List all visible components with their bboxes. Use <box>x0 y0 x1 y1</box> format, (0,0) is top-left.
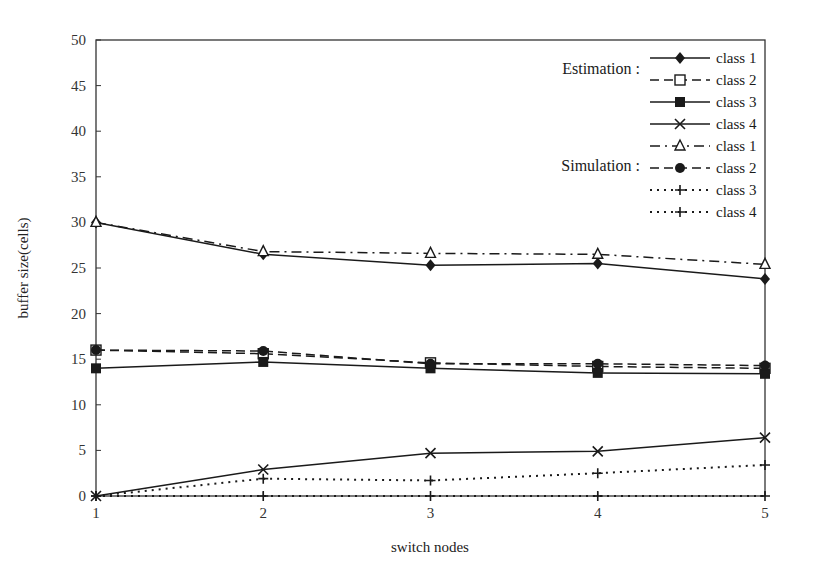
legend-entry: class 4 <box>650 116 757 132</box>
y-tick-label: 40 <box>71 123 86 139</box>
data-point-marker <box>258 246 268 256</box>
data-point-marker <box>258 491 268 501</box>
x-tick-label: 4 <box>594 505 602 521</box>
x-tick-label: 5 <box>761 505 769 521</box>
legend-entry: class 1 <box>650 50 756 66</box>
data-point-marker <box>593 248 603 258</box>
legend-marker <box>675 163 685 173</box>
data-point-marker <box>593 491 603 501</box>
y-tick-label: 35 <box>71 169 86 185</box>
legend-simulation-title: Simulation : <box>561 157 640 174</box>
y-tick-label: 15 <box>71 351 86 367</box>
legend-label: class 2 <box>716 72 756 88</box>
x-tick-label: 1 <box>92 505 100 521</box>
legend-marker <box>675 207 685 217</box>
legend-label: class 3 <box>716 182 756 198</box>
data-point-marker <box>760 273 770 285</box>
y-tick-label: 10 <box>71 397 86 413</box>
y-tick-label: 20 <box>71 306 86 322</box>
data-point-marker <box>426 491 436 501</box>
data-point-marker <box>760 491 770 501</box>
x-tick-label: 2 <box>260 505 268 521</box>
data-point-marker <box>258 357 268 367</box>
data-point-marker <box>593 257 603 269</box>
y-axis-title: buffer size(cells) <box>15 218 32 319</box>
data-point-marker <box>91 363 101 373</box>
y-tick-label: 45 <box>71 78 86 94</box>
y-tick-label: 50 <box>71 32 86 48</box>
y-tick-label: 5 <box>79 442 87 458</box>
series-estimation-class-4 <box>91 433 770 501</box>
series-layer <box>91 216 770 501</box>
legend-label: class 4 <box>716 116 757 132</box>
legend-label: class 4 <box>716 204 757 220</box>
legend-marker <box>675 140 685 150</box>
data-point-marker <box>426 259 436 271</box>
data-point-marker <box>426 475 436 485</box>
legend-entry: class 2 <box>650 72 756 88</box>
data-point-marker <box>258 346 268 356</box>
legend-entry: class 2 <box>650 160 756 176</box>
legend-entry: class 3 <box>650 182 756 198</box>
legend-marker <box>675 185 685 195</box>
data-point-marker <box>760 361 770 371</box>
data-point-marker <box>426 359 436 369</box>
data-point-marker <box>258 474 268 484</box>
y-tick-label: 0 <box>79 488 87 504</box>
legend-entry: class 4 <box>650 204 757 220</box>
legend-marker <box>675 52 685 64</box>
x-tick-label: 3 <box>427 505 435 521</box>
x-axis-title: switch nodes <box>391 539 469 555</box>
legend-label: class 3 <box>716 94 756 110</box>
data-point-marker <box>426 247 436 257</box>
legend-label: class 2 <box>716 160 756 176</box>
legend-marker <box>675 75 685 85</box>
data-point-marker <box>91 345 101 355</box>
legend-entry: class 1 <box>650 138 756 154</box>
y-tick-label: 25 <box>71 260 86 276</box>
series-line <box>96 438 765 496</box>
data-point-marker <box>593 368 603 378</box>
data-point-marker <box>760 460 770 470</box>
data-point-marker <box>593 359 603 369</box>
legend-label: class 1 <box>716 138 756 154</box>
legend: Estimation :Simulation :class 1class 2cl… <box>561 50 757 220</box>
legend-marker <box>675 97 685 107</box>
data-point-marker <box>593 468 603 478</box>
data-point-marker <box>760 258 770 268</box>
y-tick-label: 30 <box>71 214 86 230</box>
legend-entry: class 3 <box>650 94 756 110</box>
legend-estimation-title: Estimation : <box>562 60 640 77</box>
legend-label: class 1 <box>716 50 756 66</box>
line-chart: 05101520253035404550 12345 Estimation :S… <box>0 0 815 576</box>
